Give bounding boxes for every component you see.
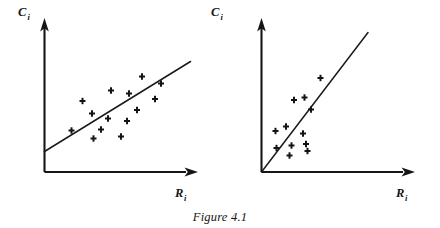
figure-caption: Figure 4.1 [192,210,247,224]
right-y-axis-label: C i [211,5,224,22]
right-x-axis-label: R i [395,186,408,203]
figure-canvas: C i R i [0,0,440,228]
left-regression-line [45,62,191,152]
data-point [80,98,86,104]
data-point [98,126,104,132]
data-point [289,142,295,148]
data-point [283,123,289,129]
left-y-axis-label-subscript: i [28,12,31,22]
left-y-axis-label-text: C [18,5,27,19]
figure-container: C i R i [0,0,440,228]
data-point [91,135,97,141]
data-point [303,141,309,147]
data-point [126,90,132,96]
data-point [89,110,95,116]
right-x-axis-label-text: R [395,186,404,200]
data-point [134,107,140,113]
left-x-axis-label-subscript: i [184,193,187,203]
right-panel-chart: C i R i [211,5,415,203]
data-point [318,75,324,81]
right-y-axis-label-subscript: i [221,12,224,22]
left-x-axis-label: R i [174,186,187,203]
data-point [273,128,279,134]
right-scatter-points [273,75,324,159]
data-point [139,73,145,79]
data-point [300,130,306,136]
data-point [105,115,111,121]
left-x-axis-arrowhead [185,167,199,176]
data-point [124,118,130,124]
data-point [305,148,311,154]
data-point [308,106,314,112]
data-point [291,97,297,103]
left-x-axis-label-text: R [174,186,183,200]
left-y-axis-label: C i [18,5,31,22]
left-panel-chart: C i R i [18,5,198,203]
right-x-axis-arrowhead [402,167,416,176]
data-point [152,96,158,102]
right-y-axis-label-text: C [211,5,220,19]
data-point [287,152,293,158]
data-point [108,87,114,93]
data-point [118,133,124,139]
data-point [302,94,308,100]
right-x-axis-label-subscript: i [405,193,408,203]
